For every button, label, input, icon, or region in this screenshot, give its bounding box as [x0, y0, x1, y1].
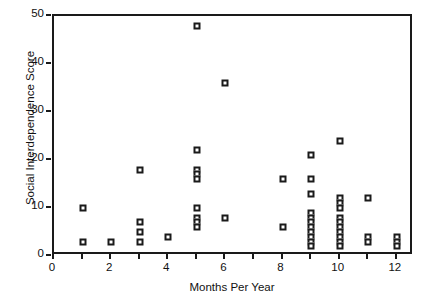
- y-tick: [46, 110, 51, 112]
- data-point: [308, 152, 315, 159]
- y-tick: [46, 254, 51, 256]
- data-point: [136, 219, 143, 226]
- data-point: [308, 176, 315, 183]
- data-point: [279, 224, 286, 231]
- data-point: [193, 176, 200, 183]
- data-point: [79, 205, 86, 212]
- plot-area: [52, 14, 412, 254]
- data-point: [222, 80, 229, 87]
- x-tick-label: 8: [277, 262, 283, 274]
- data-point: [365, 195, 372, 202]
- y-axis-title: Social Interdependence Score: [24, 28, 36, 228]
- data-point: [79, 238, 86, 245]
- data-point: [136, 238, 143, 245]
- data-point: [222, 214, 229, 221]
- data-point: [365, 238, 372, 245]
- y-tick: [46, 62, 51, 64]
- data-point: [136, 229, 143, 236]
- x-tick-label: 0: [49, 262, 55, 274]
- x-axis-tick-labels: 024681012: [52, 254, 412, 278]
- data-point: [336, 243, 343, 250]
- x-tick-label: 10: [331, 262, 344, 274]
- y-tick: [46, 206, 51, 208]
- y-axis-tick-labels: 01020304050: [0, 14, 44, 254]
- data-point: [393, 243, 400, 250]
- data-point: [165, 233, 172, 240]
- scatter-plot-figure: 01020304050 024681012 Months Per Year So…: [0, 0, 427, 301]
- data-point: [108, 238, 115, 245]
- data-point: [336, 137, 343, 144]
- data-point: [193, 22, 200, 29]
- x-tick-label: 12: [388, 262, 401, 274]
- data-point: [193, 224, 200, 231]
- x-tick-label: 2: [106, 262, 112, 274]
- x-tick-label: 6: [220, 262, 226, 274]
- y-tick: [46, 14, 51, 16]
- data-point: [193, 147, 200, 154]
- x-tick-label: 4: [163, 262, 169, 274]
- y-tick: [46, 158, 51, 160]
- y-tick-label: 50: [31, 8, 44, 20]
- data-point: [308, 243, 315, 250]
- data-point: [193, 205, 200, 212]
- data-point: [308, 190, 315, 197]
- data-point: [279, 176, 286, 183]
- data-point: [136, 166, 143, 173]
- x-axis-title: Months Per Year: [52, 281, 412, 293]
- data-point: [336, 205, 343, 212]
- y-tick-label: 0: [38, 248, 44, 260]
